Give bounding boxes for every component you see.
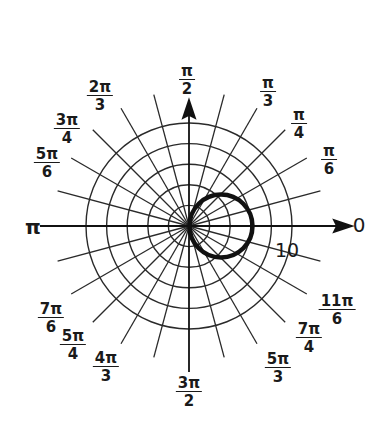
label-pi-over-2: π2 [179,63,195,97]
label-11pi-over-6: 11π6 [319,293,356,327]
grid-spoke [154,226,189,357]
label-3pi-over-2: 3π2 [176,375,202,409]
label-zero: 0 [353,213,366,237]
label-7pi-over-6: 7π6 [38,301,64,335]
label-4pi-over-3: 4π3 [93,350,119,384]
label-7pi-over-4: 7π4 [296,321,322,355]
label-radius-10: 10 [275,239,299,261]
label-pi-over-6: π6 [321,143,337,177]
label-5pi-over-3: 5π3 [265,351,291,385]
label-5pi-over-6: 5π6 [34,146,60,180]
grid-spoke [58,191,189,226]
polar-axis-arrow-icon [334,220,352,232]
vertical-axis-arrow-icon [183,100,195,118]
label-3pi-over-4: 3π4 [54,112,80,146]
grid-spoke [58,226,189,261]
label-pi: π [25,215,41,239]
label-pi-over-4: π4 [291,107,307,141]
label-pi-over-3: π3 [260,75,276,109]
label-2pi-over-3: 2π3 [87,79,113,113]
